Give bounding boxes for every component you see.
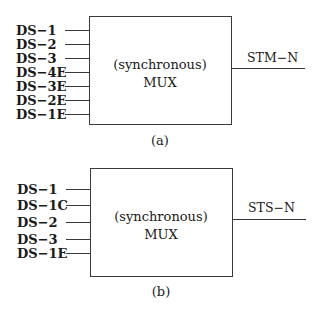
input-label: DS−1C <box>17 198 68 213</box>
output-label-a: STM−N <box>247 50 298 65</box>
output-label-b: STS−N <box>248 200 295 215</box>
diagram-a: (synchronous) MUX DS−1 DS−2 DS−3 DS−4E D… <box>16 17 305 149</box>
input-label: DS−3 <box>16 51 57 66</box>
input-label: DS−2 <box>17 215 58 230</box>
input-label: DS−1 <box>16 23 57 38</box>
diagram-b: (synchronous) MUX DS−1 DS−1C DS−2 DS−3 D… <box>17 169 306 300</box>
input-label: DS−2 <box>16 37 57 52</box>
caption-a: (a) <box>151 133 169 148</box>
inputs-b: DS−1 DS−1C DS−2 DS−3 DS−1E <box>17 182 91 261</box>
input-label: DS−3E <box>16 79 67 94</box>
mux-diagrams: (synchronous) MUX DS−1 DS−2 DS−3 DS−4E D… <box>0 0 322 313</box>
mux-box-a-line1: (synchronous) <box>113 57 206 72</box>
mux-box-b-line2: MUX <box>144 227 178 242</box>
mux-box-b-line1: (synchronous) <box>114 209 207 224</box>
caption-b: (b) <box>152 284 170 299</box>
input-label: DS−2E <box>16 93 67 108</box>
mux-box-a-line2: MUX <box>143 75 177 90</box>
input-label: DS−1E <box>16 107 67 122</box>
input-label: DS−4E <box>16 65 67 80</box>
inputs-a: DS−1 DS−2 DS−3 DS−4E DS−3E DS−2E DS−1E <box>16 23 90 122</box>
input-label: DS−3 <box>17 232 58 247</box>
input-label: DS−1 <box>17 182 58 197</box>
input-label: DS−1E <box>17 246 68 261</box>
